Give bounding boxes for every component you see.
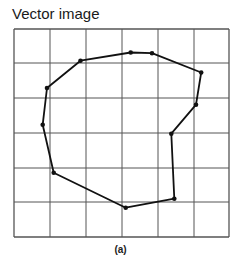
vertex-point bbox=[199, 70, 204, 75]
figure-caption: (a) bbox=[0, 244, 241, 255]
vertex-point bbox=[40, 122, 45, 127]
vector-image-figure bbox=[0, 0, 241, 265]
vertex-point bbox=[194, 102, 199, 107]
vertex-point bbox=[128, 50, 133, 55]
vertex-point bbox=[45, 86, 50, 91]
vertex-point bbox=[169, 131, 174, 136]
vertex-point bbox=[172, 196, 177, 201]
vertex-point bbox=[78, 58, 83, 63]
vertex-point bbox=[123, 205, 128, 210]
vertex-point bbox=[150, 51, 155, 56]
vertex-point bbox=[51, 170, 56, 175]
